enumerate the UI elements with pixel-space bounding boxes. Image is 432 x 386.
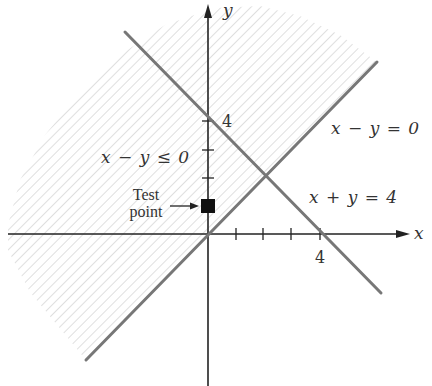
y-tick-label-4: 4 — [222, 114, 232, 130]
test-point-label-line1: Test — [116, 186, 176, 203]
line-label-x-minus-y-eq-0: x − y = 0 — [331, 120, 420, 137]
inequality-graph: y x 4 4 x − y = 0 x + y = 4 x − y ≤ 0 Te… — [0, 0, 432, 386]
test-point-marker — [201, 199, 215, 213]
region-label: x − y ≤ 0 — [101, 149, 190, 166]
line-label-x-plus-y-eq-4: x + y = 4 — [309, 189, 398, 206]
shaded-region — [8, 6, 377, 360]
x-tick-label-4: 4 — [315, 250, 325, 266]
test-point-label: Test point — [116, 186, 176, 220]
x-axis-arrow-icon — [396, 230, 410, 238]
test-point-label-line2: point — [116, 203, 176, 220]
x-axis-label: x — [414, 225, 425, 242]
y-axis-label: y — [223, 2, 234, 19]
